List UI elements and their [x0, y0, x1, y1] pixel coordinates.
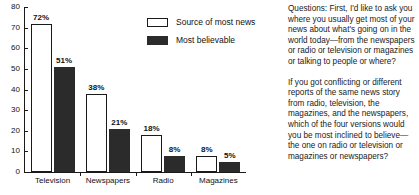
bar-value-label: 72% — [29, 14, 54, 22]
bar-magazines-source — [196, 156, 217, 173]
y-axis-label: 70 — [0, 24, 20, 32]
legend-swatch-filled — [147, 36, 168, 45]
bar-television-believable — [54, 67, 75, 172]
y-axis-label: 30 — [0, 106, 20, 114]
bar-newspapers-source — [86, 94, 107, 172]
bar-value-label: 5% — [217, 152, 242, 160]
bar-radio-source — [141, 135, 162, 172]
y-axis-label: 0 — [0, 168, 20, 176]
question-paragraph: Questions: First, I'd like to ask you wh… — [288, 4, 416, 68]
chart-figure: 01020304050607080 72%51%38%21%18%8%8%5% … — [0, 0, 419, 195]
x-axis-category-label: Television — [25, 176, 80, 185]
bar-value-label: 18% — [139, 125, 164, 133]
y-axis-tick — [24, 110, 28, 111]
legend-label: Source of most news — [176, 17, 255, 27]
bar-value-label: 38% — [84, 84, 109, 92]
y-axis-tick — [24, 69, 28, 70]
question-paragraph: If you got conflicting or different repo… — [288, 78, 416, 163]
bar-newspapers-believable — [109, 129, 130, 172]
bar-chart: 01020304050607080 72%51%38%21%18%8%8%5% … — [0, 0, 270, 195]
y-axis-tick — [24, 28, 28, 29]
bar-value-label: 8% — [162, 146, 187, 154]
y-axis-label: 40 — [0, 86, 20, 94]
bar-magazines-believable — [219, 162, 240, 172]
x-axis-category-label: Radio — [136, 176, 191, 185]
x-axis-category-label: Newspapers — [80, 176, 135, 185]
y-axis-tick — [24, 151, 28, 152]
bar-radio-believable — [164, 156, 185, 173]
y-axis-tick — [24, 172, 28, 173]
bar-value-label: 21% — [107, 119, 132, 127]
y-axis-label: 60 — [0, 44, 20, 52]
question-text-block: Questions: First, I'd like to ask you wh… — [288, 4, 416, 162]
y-axis-tick — [24, 90, 28, 91]
bar-value-label: 51% — [52, 57, 77, 65]
y-axis-label: 10 — [0, 147, 20, 155]
y-axis-label: 80 — [0, 3, 20, 11]
bar-television-source — [31, 24, 52, 173]
y-axis-tick — [24, 131, 28, 132]
x-axis-category-label: Magazines — [191, 176, 246, 185]
legend-label: Most believable — [176, 35, 235, 45]
y-axis-label: 50 — [0, 65, 20, 73]
y-axis-tick — [24, 7, 28, 8]
y-axis-tick — [24, 48, 28, 49]
bar-value-label: 8% — [194, 146, 219, 154]
legend-swatch-open — [147, 18, 168, 27]
y-axis-label: 20 — [0, 127, 20, 135]
